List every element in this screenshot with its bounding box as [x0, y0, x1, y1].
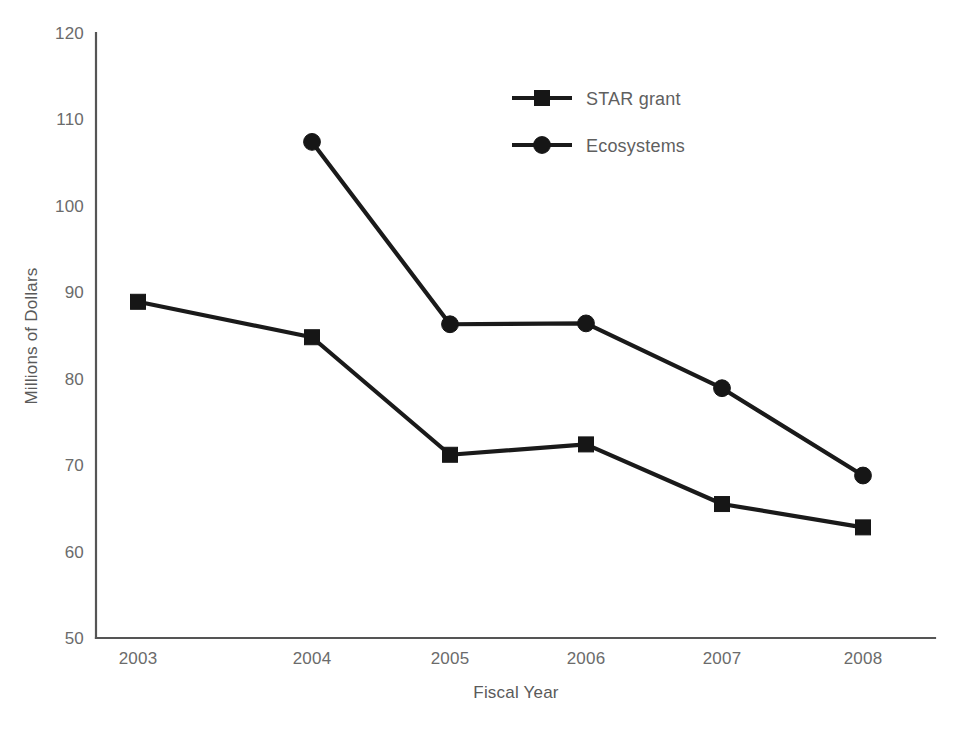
y-tick-label: 110 — [56, 110, 84, 129]
y-tick-label: 80 — [65, 370, 84, 389]
line-chart: 5060708090100110120 20032004200520062007… — [0, 0, 957, 733]
y-tick-label: 60 — [65, 543, 84, 562]
x-axis-tick-labels: 200320042005200620072008 — [119, 649, 883, 668]
series-line — [138, 302, 863, 528]
x-tick-label: 2007 — [703, 649, 742, 668]
chart-legend: STAR grantEcosystems — [512, 89, 685, 156]
series-line — [312, 142, 863, 476]
data-point-marker — [443, 447, 458, 462]
legend-swatch-marker — [534, 137, 551, 154]
x-tick-label: 2006 — [567, 649, 606, 668]
x-axis-title: Fiscal Year — [473, 683, 558, 702]
data-point-marker — [715, 497, 730, 512]
data-point-marker — [855, 467, 872, 484]
legend-label: Ecosystems — [586, 136, 685, 156]
data-point-marker — [442, 316, 459, 333]
data-point-marker — [856, 520, 871, 535]
y-tick-label: 90 — [65, 283, 84, 302]
data-point-marker — [131, 294, 146, 309]
data-point-marker — [714, 380, 731, 397]
data-point-marker — [305, 330, 320, 345]
y-tick-label: 70 — [65, 456, 84, 475]
y-tick-label: 120 — [55, 24, 84, 43]
data-point-marker — [578, 315, 595, 332]
x-tick-label: 2004 — [293, 649, 332, 668]
y-axis-title: Millions of Dollars — [22, 267, 41, 404]
legend-label: STAR grant — [586, 89, 681, 109]
data-point-marker — [579, 437, 594, 452]
series-layer — [131, 134, 872, 535]
x-tick-label: 2005 — [431, 649, 470, 668]
legend-swatch-marker — [535, 91, 550, 106]
y-tick-label: 100 — [55, 197, 84, 216]
chart-container: 5060708090100110120 20032004200520062007… — [0, 0, 957, 733]
x-tick-label: 2008 — [844, 649, 883, 668]
data-point-marker — [304, 134, 321, 151]
y-tick-label: 50 — [65, 629, 84, 648]
y-axis-tick-labels: 5060708090100110120 — [55, 24, 84, 648]
x-tick-label: 2003 — [119, 649, 158, 668]
